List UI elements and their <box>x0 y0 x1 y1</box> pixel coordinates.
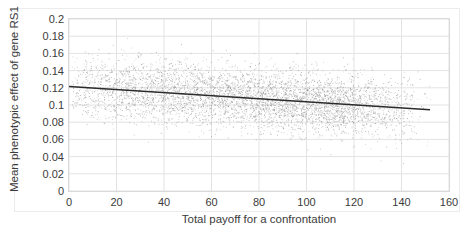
x-tick-label: 0 <box>49 195 89 209</box>
x-tick-label: 60 <box>192 195 232 209</box>
y-axis-tick-labels: 00.020.040.060.080.10.120.140.160.180.2 <box>18 18 64 192</box>
y-tick-label: 0.14 <box>18 65 64 76</box>
trend-line <box>69 19 449 191</box>
scatter-chart-figure: Mean phenotypic effect of gene RS1 00.02… <box>0 0 473 250</box>
y-tick-label: 0.18 <box>18 31 64 42</box>
y-tick-label: 0.06 <box>18 134 64 145</box>
y-tick-label: 0.1 <box>18 100 64 111</box>
x-tick-label: 140 <box>382 195 422 209</box>
x-tick-label: 80 <box>239 195 279 209</box>
plot-area <box>68 18 450 192</box>
y-tick-label: 0.2 <box>18 14 64 25</box>
y-tick-label: 0.08 <box>18 117 64 128</box>
y-tick-label: 0.16 <box>18 48 64 59</box>
y-tick-label: 0.04 <box>18 151 64 162</box>
y-tick-label: 0.12 <box>18 82 64 93</box>
x-tick-label: 160 <box>429 195 469 209</box>
x-tick-label: 100 <box>287 195 327 209</box>
x-tick-label: 20 <box>97 195 137 209</box>
x-axis-tick-labels: 020406080100120140160 <box>68 195 450 209</box>
x-axis-title: Total payoff for a confrontation <box>68 212 450 226</box>
y-tick-label: 0.02 <box>18 168 64 179</box>
x-tick-label: 120 <box>334 195 374 209</box>
x-tick-label: 40 <box>144 195 184 209</box>
